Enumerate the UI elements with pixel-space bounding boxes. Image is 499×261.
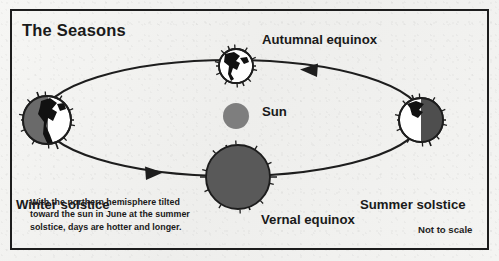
sun-body [223, 103, 249, 129]
page-title: The Seasons [22, 21, 126, 40]
label-sun: Sun [262, 104, 287, 119]
figure-caption: With the northern hemisphere tilted towa… [30, 196, 222, 233]
label-autumnal-equinox: Autumnal equinox [262, 32, 377, 47]
seasons-diagram: The Seasons Autumnal equinox Sun Winter … [0, 0, 499, 261]
caption-line: With the northern hemisphere tilted [30, 196, 222, 208]
caption-line: toward the sun in June at the summer [30, 208, 222, 220]
bottom-orbit-arrow-icon [145, 167, 163, 181]
label-vernal-equinox: Vernal equinox [261, 212, 355, 227]
caption-line: solstice, days are hotter and longer. [30, 221, 222, 233]
not-to-scale-note: Not to scale [418, 224, 472, 235]
label-summer-solstice: Summer solstice [360, 197, 466, 212]
